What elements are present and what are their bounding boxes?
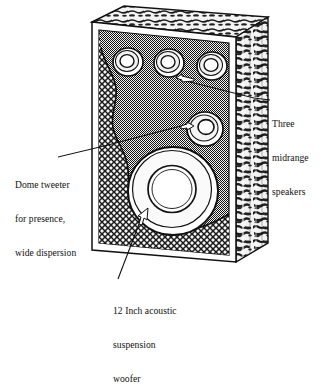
midrange-speaker-center: [154, 49, 184, 77]
callout-tweeter-line-1: Dome tweeter: [15, 179, 76, 190]
callout-tweeter-line-3: wide dispersion: [15, 247, 76, 258]
dome-tweeter: [187, 112, 223, 146]
callout-woofer: 12 Inch acoustic suspension woofer: [113, 282, 177, 386]
callout-woofer-line-2: suspension: [113, 339, 177, 350]
callout-midrange-line-2: midrange: [272, 152, 309, 163]
callout-dome-tweeter: Dome tweeter for presence, wide dispersi…: [15, 156, 76, 281]
callout-tweeter-line-2: for presence,: [15, 213, 76, 224]
callout-woofer-line-1: 12 Inch acoustic: [113, 305, 177, 316]
cabinet-side-panel: [236, 17, 268, 262]
callout-midrange-line-1: Three: [272, 118, 309, 129]
callout-woofer-line-3: woofer: [113, 373, 177, 384]
midrange-speaker-right: [197, 52, 227, 80]
speaker-enclosure: [92, 6, 268, 262]
callout-three-midrange-speakers: Three midrange speakers: [272, 95, 309, 220]
midrange-speaker-left: [113, 48, 143, 76]
callout-midrange-line-3: speakers: [272, 186, 309, 197]
